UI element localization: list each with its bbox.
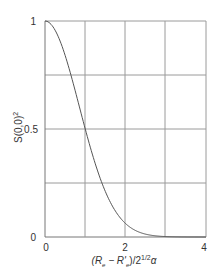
- y-axis-label: S(0,0)2: [12, 112, 24, 143]
- grid: [45, 21, 206, 237]
- x-axis-label: (Re − R'e)/21/2α: [92, 254, 157, 268]
- y-tick-0.5: 0.5: [24, 124, 38, 135]
- x-tick-0: 0: [43, 242, 49, 253]
- y-tick-1: 1: [30, 16, 36, 27]
- y-tick-0: 0: [30, 232, 36, 243]
- svg-text:S(0,0)2: S(0,0)2: [12, 112, 24, 143]
- chart-canvas: 1 0.5 0 0 2 4 S(0,0)2 (Re − R'e)/21/2α: [0, 0, 218, 280]
- x-tick-2: 2: [122, 242, 128, 253]
- x-tick-4: 4: [201, 242, 207, 253]
